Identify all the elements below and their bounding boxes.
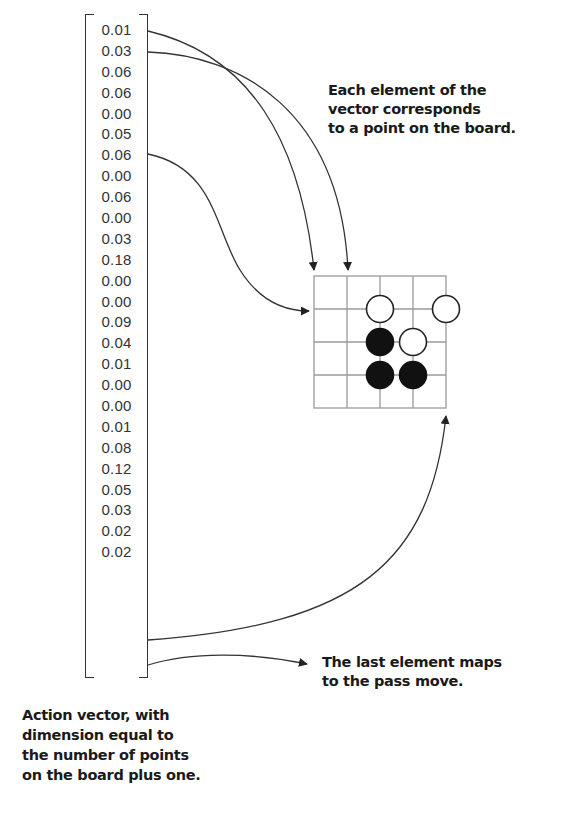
caption-line: dimension equal to	[22, 725, 201, 745]
white-stone	[367, 296, 394, 323]
black-stone	[367, 329, 394, 356]
black-stone	[367, 362, 394, 389]
note-line: vector corresponds	[328, 100, 516, 119]
arrow-pass-move-icon	[148, 655, 307, 665]
white-stone	[400, 329, 427, 356]
pass-move-note: The last element maps to the pass move.	[322, 653, 502, 691]
white-stone	[433, 296, 460, 323]
note-line: Each element of the	[328, 81, 516, 100]
arrow-element-6-icon	[148, 154, 309, 311]
vector-caption: Action vector, with dimension equal to t…	[22, 705, 201, 785]
note-line: to a point on the board.	[328, 119, 516, 138]
note-line: to the pass move.	[322, 672, 502, 691]
arrow-element-2-icon	[148, 52, 348, 270]
black-stone	[400, 362, 427, 389]
arrow-element-25-icon	[148, 416, 446, 640]
board-mapping-note: Each element of the vector corresponds t…	[328, 81, 516, 138]
caption-line: Action vector, with	[22, 705, 201, 725]
arrow-element-1-icon	[148, 31, 314, 270]
note-line: The last element maps	[322, 653, 502, 672]
caption-line: the number of points	[22, 745, 201, 765]
caption-line: on the board plus one.	[22, 765, 201, 785]
